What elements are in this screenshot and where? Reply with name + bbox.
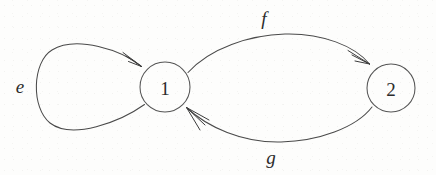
edge-f-label: f [261,8,269,29]
edge-e-arrowhead [123,53,142,67]
edge-g-path [187,107,373,142]
edge-g: g [187,107,373,168]
edge-g-arrowhead [187,108,210,131]
node-2-label: 2 [386,79,396,100]
node-1-label: 1 [160,78,170,99]
graph-canvas: e f g 1 2 [0,0,436,175]
edge-f-arrowhead [348,51,370,65]
edge-f-path [188,34,370,73]
node-2: 2 [367,64,415,112]
edge-e-label: e [16,76,24,97]
edge-e: e [16,44,145,130]
edge-f: f [188,8,370,73]
node-1: 1 [140,62,190,112]
edge-g-label: g [266,147,276,168]
graph-figure: e f g 1 2 [0,0,436,175]
